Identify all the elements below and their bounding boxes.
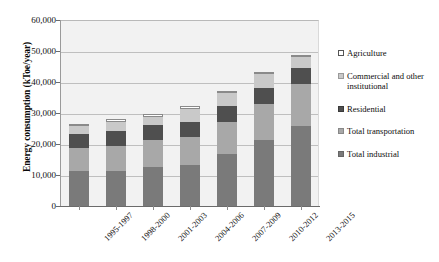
x-tick-label: 1995-1997 — [101, 210, 134, 243]
x-tick-mark — [153, 206, 154, 210]
y-tick-label: 30,000 — [31, 108, 56, 118]
x-tick-mark — [190, 206, 191, 210]
bar-segment — [254, 88, 274, 105]
legend-swatch-icon — [338, 106, 344, 112]
bar-segment — [69, 171, 89, 206]
legend-item-label: Total transportation — [347, 126, 414, 137]
legend-item[interactable]: Agriculture — [338, 48, 438, 59]
legend-item-label: Residential — [347, 104, 386, 115]
bar-segment — [143, 117, 163, 126]
chart-legend: AgricultureCommercial and other institut… — [338, 48, 438, 171]
x-tick-label: 2010-2012 — [286, 210, 319, 243]
y-tick-mark — [56, 144, 60, 145]
bar-segment — [180, 165, 200, 206]
y-tick-label: 60,000 — [31, 15, 56, 25]
y-axis-tick-labels: 60,00050,00040,00030,00020,00010,0000 — [6, 14, 56, 212]
y-tick-mark — [56, 82, 60, 83]
y-tick-mark — [56, 20, 60, 21]
bar-segment — [106, 122, 126, 131]
bar-stack — [217, 91, 237, 206]
x-tick-mark — [116, 206, 117, 210]
bar-stack — [254, 72, 274, 206]
legend-item-label: Agriculture — [347, 48, 387, 59]
x-tick-mark — [264, 206, 265, 210]
y-tick-mark — [56, 175, 60, 176]
bar-segment — [291, 126, 311, 206]
bar-segment — [254, 74, 274, 87]
bar-segment — [180, 109, 200, 122]
bar-segment — [217, 154, 237, 206]
bars-container — [60, 20, 319, 206]
bar-segment — [69, 126, 89, 134]
bar-segment — [106, 131, 126, 145]
bar-stack — [143, 114, 163, 206]
legend-item-label: Commercial and other institutional — [347, 71, 438, 92]
legend-item[interactable]: Total transportation — [338, 126, 438, 137]
y-tick-label: 20,000 — [31, 139, 56, 149]
x-tick-label: 2004-2006 — [212, 210, 245, 243]
bar-stack — [69, 124, 89, 206]
legend-swatch-icon — [338, 73, 344, 79]
bar-stack — [106, 119, 126, 206]
bar-segment — [69, 134, 89, 148]
bar-segment — [254, 104, 274, 139]
bar-segment — [143, 125, 163, 140]
x-tick-mark — [301, 206, 302, 210]
y-tick-mark — [56, 51, 60, 52]
bar-segment — [106, 171, 126, 206]
legend-item-label: Total industrial — [347, 149, 399, 160]
x-tick-label: 2001-2003 — [175, 210, 208, 243]
x-tick-mark — [79, 206, 80, 210]
x-tick-label: 2013-2015 — [323, 210, 356, 243]
bar-segment — [143, 140, 163, 167]
x-tick-mark — [227, 206, 228, 210]
bar-segment — [69, 148, 89, 171]
legend-item[interactable]: Total industrial — [338, 149, 438, 160]
bar-segment — [291, 68, 311, 84]
bar-segment — [217, 93, 237, 106]
y-tick-mark — [56, 206, 60, 207]
bar-segment — [180, 122, 200, 137]
bar-segment — [143, 167, 163, 206]
y-tick-label: 10,000 — [31, 170, 56, 180]
y-tick-label: 50,000 — [31, 46, 56, 56]
legend-swatch-icon — [338, 128, 344, 134]
bar-segment — [291, 84, 311, 126]
legend-item[interactable]: Commercial and other institutional — [338, 71, 438, 92]
legend-swatch-icon — [338, 151, 344, 157]
bar-segment — [217, 106, 237, 122]
bar-segment — [291, 57, 311, 68]
legend-swatch-icon — [338, 50, 344, 56]
bar-segment — [254, 140, 274, 206]
bar-segment — [217, 122, 237, 154]
x-tick-label: 1998-2000 — [138, 210, 171, 243]
bar-stack — [291, 55, 311, 206]
bar-segment — [106, 146, 126, 171]
stacked-bar-chart: Energy consumption (kToe/year) 60,00050,… — [0, 0, 439, 262]
bar-segment — [180, 137, 200, 165]
bar-stack — [180, 106, 200, 206]
legend-item[interactable]: Residential — [338, 104, 438, 115]
y-tick-mark — [56, 113, 60, 114]
y-tick-label: 40,000 — [31, 77, 56, 87]
x-axis-tick-labels: 1995-19971998-20002001-20032004-20062007… — [0, 208, 340, 262]
x-tick-label: 2007-2009 — [249, 210, 282, 243]
